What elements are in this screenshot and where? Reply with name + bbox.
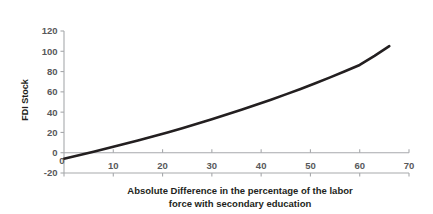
y-tick-label: 120 bbox=[42, 25, 58, 36]
x-axis-title-line2: force with secondary education bbox=[169, 198, 312, 209]
y-tick-label: 80 bbox=[47, 66, 58, 77]
y-tick-label: 20 bbox=[47, 127, 58, 138]
x-tick-label: 10 bbox=[108, 160, 119, 171]
y-tick-label: 0 bbox=[52, 147, 57, 158]
y-tick-label: -20 bbox=[44, 167, 58, 178]
x-tick-label: 60 bbox=[354, 160, 365, 171]
chart-background bbox=[0, 0, 433, 214]
x-tick-label: 30 bbox=[207, 160, 218, 171]
x-tick-label: 50 bbox=[305, 160, 316, 171]
y-tick-label: 60 bbox=[47, 86, 58, 97]
x-tick-label: 0 bbox=[59, 155, 64, 166]
y-axis-title: FDI Stock bbox=[20, 78, 30, 121]
x-tick-label: 70 bbox=[404, 160, 415, 171]
chart-container: -20020406080100120 010203040506070 FDI S… bbox=[0, 0, 433, 214]
fdi-stock-line-chart: -20020406080100120 010203040506070 FDI S… bbox=[0, 0, 433, 214]
y-tick-label: 40 bbox=[47, 107, 58, 118]
y-tick-label: 100 bbox=[42, 46, 58, 57]
x-tick-label: 20 bbox=[157, 160, 168, 171]
x-tick-label: 40 bbox=[256, 160, 267, 171]
x-axis-title-line1: Absolute Difference in the percentage of… bbox=[127, 185, 353, 196]
